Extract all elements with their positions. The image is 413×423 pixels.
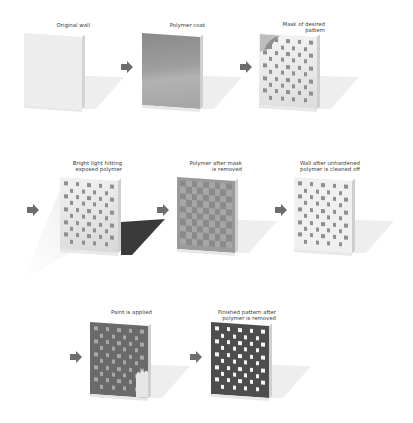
checker-cell [100,384,103,388]
checker-cell [244,341,247,345]
checker-cell [333,216,336,220]
checker-cell [112,353,115,357]
checker-cell [316,202,319,206]
checker-cell [117,328,120,332]
checker-cell [215,352,218,356]
checker-cell [298,194,301,198]
checker-cell [99,197,102,201]
checker-cell [105,216,108,220]
checker-cell [263,57,266,61]
checker-cell [250,329,253,333]
step-paint [90,322,190,407]
checker-cell [123,380,126,384]
checker-cell [70,239,73,243]
checker-cell [221,359,224,363]
checker-cell [215,378,218,382]
checker-cell [304,233,307,237]
arrow-right-icon [275,204,287,216]
checker-cell [221,384,224,388]
checker-cell [304,59,307,63]
checker-cell [339,210,342,214]
checker-cell [64,194,67,198]
checker-cell [286,39,289,43]
checker-cell [310,240,313,244]
checker-cell [281,58,284,62]
checker-cell [135,342,138,346]
checker-cell [112,328,115,332]
checker-cell [321,189,324,193]
checker-cell [215,371,218,375]
checker-cell [309,92,312,96]
checker-cell [298,85,301,89]
step-cleaned [294,177,394,262]
checker-cell [339,203,342,207]
checker-cell [105,242,108,246]
checker-cell [94,333,97,337]
checker-cell [327,183,330,187]
step-label-paint: Paint is applied [100,309,152,315]
checker-cell [82,234,85,238]
checker-cell [310,208,313,212]
checker-cell [244,386,247,390]
checker-cell [344,185,347,189]
checker-cell [292,59,295,63]
checker-cell [256,368,259,372]
checker-cell [256,380,259,384]
checker-cell [82,221,85,225]
checker-cell [250,386,253,390]
checker-cell [110,236,113,240]
lit-face [60,177,118,253]
checker-cell [238,379,241,383]
checker-cell [261,362,264,366]
checker-cell [99,229,102,233]
checker-cell [316,183,319,187]
checker-cell [94,384,97,388]
checker-cell [261,381,264,385]
step-finished [211,322,311,407]
checker-cell [298,188,301,192]
checker-cell [215,358,218,362]
checker-cell [316,215,319,219]
checker-cell [82,215,85,219]
wall-edge [269,323,272,398]
checker-cell [123,373,126,377]
checker-cell [129,380,132,384]
checker-cell [227,340,230,344]
checker-cell [298,213,301,217]
checker-cell [82,227,85,231]
checker-cell [129,354,132,358]
checker-cell [250,361,253,365]
checker-cell [286,90,289,94]
checker-cell [76,195,79,199]
checker-cell [64,207,67,211]
arrow-right-icon [240,61,252,73]
checker-cell [286,52,289,56]
checker-cell [99,209,102,213]
checker-cell [117,379,120,383]
step-label-original-wall: Original wall [40,22,90,28]
checker-cell [298,65,301,69]
checker-cell [221,372,224,376]
checker-cell [286,77,289,81]
step-mask [259,33,359,118]
checker-cell [333,229,336,233]
checker-cell [292,78,295,82]
checker-cell [99,203,102,207]
checker-cell [321,215,324,219]
checker-cell [215,333,218,337]
painted-face [90,322,148,398]
checker-cell [333,209,336,213]
unpainted-strip [134,367,148,398]
wall-edge [200,34,203,109]
checker-cell [70,233,73,237]
checker-cell [309,73,312,77]
checker-cell [87,221,90,225]
checker-cell [286,58,289,62]
checker-cell [269,57,272,61]
wall-face [24,33,82,109]
checker-cell [250,367,253,371]
checker-pattern [63,180,115,248]
checker-cell [244,367,247,371]
checker-cell [250,342,253,346]
checker-cell [256,342,259,346]
